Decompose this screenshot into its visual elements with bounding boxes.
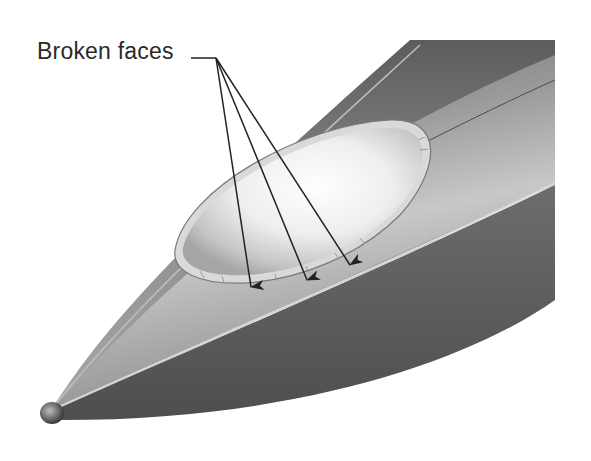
figure: Broken faces xyxy=(0,0,591,461)
annotation-label: Broken faces xyxy=(37,38,174,65)
nose-cone-model xyxy=(0,0,591,461)
nose-tip xyxy=(40,402,64,424)
